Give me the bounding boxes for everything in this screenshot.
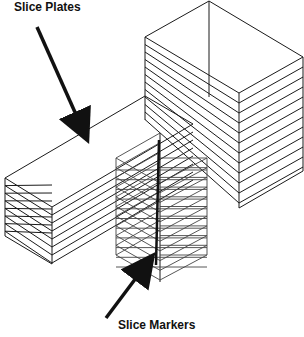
slice-plates-label: Slice Plates — [14, 0, 81, 14]
arrow-slice-plates — [37, 27, 82, 128]
arrow-slice-markers — [106, 266, 145, 318]
diagram-figure — [0, 0, 304, 337]
diagram-canvas: Slice Plates Slice Markers — [0, 0, 304, 337]
marker-column — [116, 133, 207, 282]
slice-markers-label: Slice Markers — [118, 318, 195, 332]
